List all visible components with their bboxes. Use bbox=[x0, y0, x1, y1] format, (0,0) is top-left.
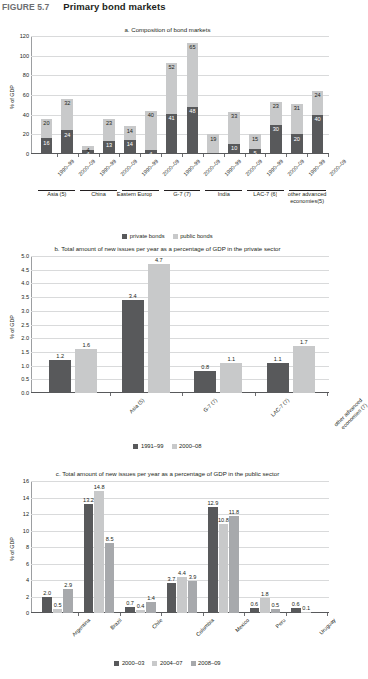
bar-value-private: 14 bbox=[119, 141, 140, 147]
x-tick-label: Brazil bbox=[109, 617, 123, 631]
chart-b-title: b. Total amount of new issues per year a… bbox=[0, 245, 335, 252]
bar-value-public: 14 bbox=[119, 128, 140, 134]
group-label: other advanced economies(5) bbox=[277, 191, 338, 205]
x-tickmark bbox=[203, 154, 204, 157]
legend-item: 2004–07 bbox=[152, 660, 182, 666]
bar-segment-public bbox=[187, 43, 199, 107]
bar-value-private: 41 bbox=[161, 115, 182, 121]
y-axis-title: % of GDP bbox=[9, 537, 15, 561]
gridline bbox=[31, 256, 329, 257]
bar-value-series-1: 0.8 bbox=[188, 364, 222, 370]
gridline bbox=[31, 325, 329, 326]
x-tick-label: Asia (5) bbox=[97, 397, 145, 445]
bar-series-3 bbox=[146, 602, 156, 614]
bar-series-1 bbox=[250, 608, 260, 613]
y-tick-label: 120 bbox=[20, 33, 31, 39]
x-tickmark bbox=[265, 154, 266, 157]
bar-series-3 bbox=[229, 516, 239, 613]
bar-value-series-2: 14.8 bbox=[87, 484, 111, 490]
bar-value-public: 40 bbox=[140, 112, 161, 118]
x-tick-label: 2000–09 bbox=[244, 158, 263, 177]
y-tick-label: 80 bbox=[23, 72, 31, 78]
gridline bbox=[31, 338, 329, 339]
x-tickmark bbox=[119, 154, 120, 157]
bar-series-2 bbox=[136, 610, 146, 613]
legend-label: 2000–08 bbox=[179, 443, 202, 449]
y-tick-label: 5.0 bbox=[21, 253, 31, 259]
chart-panel-a: a. Composition of bond markets 020406080… bbox=[0, 26, 335, 241]
x-tick-label: Argentina bbox=[70, 617, 91, 638]
x-tickmark bbox=[244, 613, 245, 616]
chart-c-title: c. Total amount of new issues per year a… bbox=[0, 470, 335, 477]
legend-label: 2004–07 bbox=[160, 660, 183, 666]
bar-stacked bbox=[187, 43, 199, 154]
bar-stacked bbox=[291, 104, 303, 154]
x-tick-label: Uruguay bbox=[318, 617, 337, 636]
bar-value-series-1: 12.9 bbox=[201, 500, 225, 506]
bar-series-2 bbox=[177, 577, 187, 613]
gridline bbox=[31, 297, 329, 298]
y-tick-label: 3.0 bbox=[21, 308, 31, 314]
x-tickmark bbox=[120, 613, 121, 616]
bar-segment-private bbox=[207, 153, 219, 154]
x-tick-label: 1990–99 bbox=[57, 158, 76, 177]
x-tickmark bbox=[327, 613, 328, 616]
x-tick-label: 2000–09 bbox=[77, 158, 96, 177]
bar-value-series-2: 1.1 bbox=[214, 356, 248, 362]
x-tickmark bbox=[224, 154, 225, 157]
bar-series-1 bbox=[84, 504, 94, 613]
legend-item: 2008–09 bbox=[191, 660, 221, 666]
bar-series-2 bbox=[53, 609, 63, 613]
bar-value-series-1: 3.4 bbox=[116, 293, 150, 299]
gridline bbox=[31, 498, 329, 499]
bar-value-series-3: 8.5 bbox=[98, 536, 122, 542]
bar-value-series-2: 1.8 bbox=[253, 591, 277, 597]
bar-value-public: 24 bbox=[307, 92, 328, 98]
x-tickmark bbox=[286, 613, 287, 616]
bar-value-private: 24 bbox=[57, 132, 78, 138]
gridline bbox=[31, 564, 329, 565]
bar-segment-public bbox=[166, 63, 178, 114]
legend-label: 2008–09 bbox=[198, 660, 221, 666]
gridline bbox=[31, 283, 329, 284]
bar-series-2 bbox=[75, 349, 97, 393]
y-tick-label: 100 bbox=[20, 53, 31, 59]
bar-value-private: 48 bbox=[182, 108, 203, 114]
bar-value-private: 16 bbox=[36, 140, 57, 146]
bar-series-1 bbox=[194, 371, 216, 393]
bar-series-1 bbox=[267, 363, 289, 393]
x-tick-label: Colombia bbox=[195, 617, 215, 637]
y-tick-label: 40 bbox=[23, 112, 31, 118]
bar-value-public: 33 bbox=[224, 113, 245, 119]
y-tick-label: 6 bbox=[26, 561, 31, 567]
y-tick-label: 4.5 bbox=[21, 267, 31, 273]
y-tick-label: 0 bbox=[26, 151, 31, 157]
y-tick-label: 1.0 bbox=[21, 363, 31, 369]
bar-value-public: 32 bbox=[57, 100, 78, 106]
legend-item: 1991–99 bbox=[133, 443, 163, 449]
bar-value-private: 13 bbox=[99, 142, 120, 148]
chart-c-legend: 2000–032004–072008–09 bbox=[0, 660, 335, 666]
figure-header: FIGURE 5.7 Primary bond markets bbox=[0, 0, 335, 13]
y-tick-label: 0.5 bbox=[21, 376, 31, 382]
bar-value-public: 23 bbox=[265, 103, 286, 109]
x-tick-label: 2000–09 bbox=[203, 158, 222, 177]
bar-value-public: 19 bbox=[203, 136, 224, 142]
x-tick-label: LAC-7 (7) bbox=[242, 397, 290, 445]
y-tick-label: 4 bbox=[26, 577, 31, 583]
legend-item: public bonds bbox=[173, 233, 213, 239]
bar-series-3 bbox=[105, 543, 115, 613]
bar-series-2 bbox=[301, 612, 311, 613]
x-tick-label: 2000–09 bbox=[286, 158, 305, 177]
bar-series-2 bbox=[220, 363, 242, 393]
y-tick-label: 10 bbox=[23, 528, 31, 534]
x-tickmark bbox=[99, 154, 100, 157]
y-tick-label: 8 bbox=[26, 544, 31, 550]
x-tick-label: Peru bbox=[274, 617, 286, 629]
bar-series-2 bbox=[219, 524, 229, 613]
x-tickmark bbox=[161, 154, 162, 157]
bar-value-private: 40 bbox=[307, 116, 328, 122]
bar-series-3 bbox=[271, 609, 281, 613]
chart-a-legend: private bondspublic bonds bbox=[0, 233, 335, 239]
chart-b-legend: 1991–992000–08 bbox=[0, 443, 335, 449]
